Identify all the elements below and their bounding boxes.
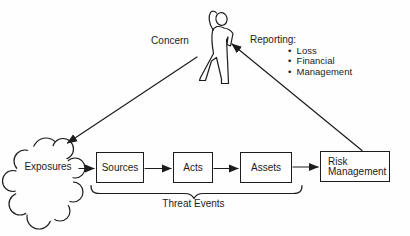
sources-box-label: Sources [102, 163, 139, 173]
risk-management-box: Risk Management [320, 151, 390, 182]
threat-events-label: Threat Events [133, 199, 254, 209]
acts-box-label: Acts [183, 163, 202, 173]
assets-box-label: Assets [251, 163, 281, 173]
concern-label: Concern [149, 36, 191, 46]
person-head [215, 12, 229, 27]
sources-box: Sources [96, 152, 144, 183]
risk-management-box-label-line2: Management [328, 167, 386, 177]
concerned-person-icon [200, 11, 234, 83]
exposures-cloud [3, 138, 86, 229]
reporting-label: Reporting: [250, 35, 296, 45]
reporting-item-management: Management [288, 67, 352, 77]
exposures-cloud-label: Exposures [20, 162, 76, 172]
threat-events-brace [91, 186, 302, 199]
person-body [200, 27, 234, 84]
assets-box: Assets [240, 152, 292, 183]
arrow-concern-to-exposures [68, 57, 198, 143]
reporting-list: Loss Financial Management [288, 46, 352, 77]
diagram-canvas: Concern Reporting: Loss Financial Manage… [0, 0, 410, 236]
acts-box: Acts [173, 152, 213, 183]
